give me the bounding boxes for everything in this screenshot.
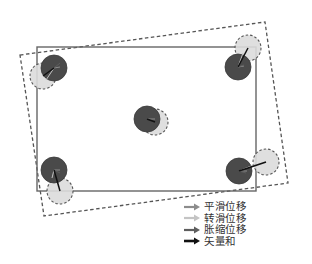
legend-label: 矢量和	[204, 236, 236, 247]
legend: 平滑位移 转滑位移 胀缩位移 矢量和	[184, 201, 246, 247]
legend-label: 转滑位移	[204, 213, 246, 224]
legend-item-resultant: 矢量和	[184, 236, 246, 248]
arrow-right-icon	[184, 237, 200, 245]
legend-item-translation: 平滑位移	[184, 201, 246, 213]
legend-item-expansion: 胀缩位移	[184, 224, 246, 236]
legend-label: 胀缩位移	[204, 224, 246, 235]
original-points	[41, 54, 252, 184]
arrow-right-icon	[184, 203, 200, 211]
displacement-diagram	[0, 0, 312, 264]
arrow-right-icon	[184, 226, 200, 234]
legend-label: 平滑位移	[204, 201, 246, 212]
arrow-right-icon	[184, 214, 200, 222]
